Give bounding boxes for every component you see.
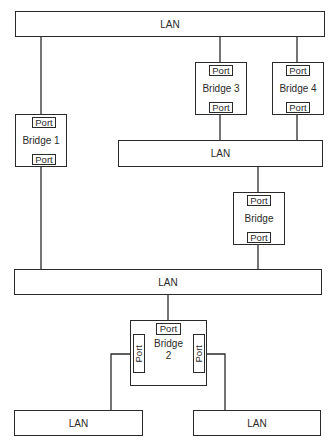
port-bottom: Port [247,232,271,243]
port-top: Port [286,65,310,76]
lan-middle: LAN [118,140,323,167]
bridge-label: Bridge 4 [273,83,323,95]
bridge-label-line2: 2 [131,350,206,362]
bridge-label: Bridge 1 [16,135,66,147]
bridge-3: Port Bridge 3 Port [195,62,247,115]
bridge-1: Port Bridge 1 Port [15,114,67,167]
port-top: Port [32,117,56,128]
port-bottom: Port [286,102,310,113]
lan-label: LAN [69,418,88,429]
bridge: Port Bridge Port [233,192,285,245]
bridge-label-line1: Bridge [131,338,206,350]
lan-label: LAN [211,148,230,159]
bridge-2: Port Port Port Bridge 2 [130,320,207,386]
lan-label: LAN [158,277,177,288]
lan-lower: LAN [14,269,322,295]
port-top: Port [209,65,233,76]
lan-label: LAN [160,19,179,30]
port-top: Port [247,195,271,206]
port-bottom: Port [209,102,233,113]
port-bottom: Port [32,154,56,165]
bridge-label: Bridge 3 [196,83,246,95]
lan-bottom-left: LAN [14,410,143,436]
bridge-label: Bridge [234,213,284,225]
lan-label: LAN [247,418,266,429]
port-top: Port [156,323,181,335]
lan-bottom-right: LAN [193,410,321,436]
lan-top: LAN [15,11,325,37]
bridge-4: Port Bridge 4 Port [272,62,324,115]
